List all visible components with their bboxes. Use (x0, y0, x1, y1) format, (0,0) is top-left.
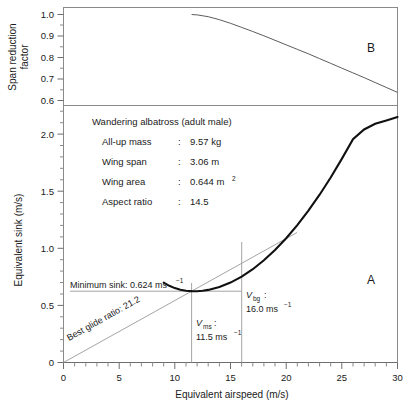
panel-a-ytick-label: 0 (49, 357, 54, 368)
panel-a-yticks-minor (60, 111, 64, 351)
info-block: Wandering albatross (adult male) All-up … (92, 116, 236, 207)
panel-a-xtick-label: 20 (281, 372, 292, 383)
panel-a-label: A (367, 273, 375, 287)
figure-root: 1.0 0.9 0.8 0.7 0.6 Span reduction facto… (0, 0, 419, 405)
panel-a-xtick-label: 10 (170, 372, 181, 383)
panel-b-ylabel-line1: Span reduction (7, 23, 18, 90)
info-row-separator: : (178, 176, 181, 187)
v-ms-symbol: V (196, 318, 203, 328)
v-ms-subscript: ms (203, 323, 212, 330)
info-row-value: 3.06 m (190, 156, 219, 167)
panel-a-ytick-labels: 0 0.5 1.0 1.5 2.0 (41, 129, 54, 368)
panel-a-ytick-label: 1.5 (41, 186, 54, 197)
panel-b-ytick-label: 0.7 (41, 73, 54, 84)
figure-svg: 1.0 0.9 0.8 0.7 0.6 Span reduction facto… (0, 0, 419, 405)
panel-b-ylabel: Span reduction factor (7, 23, 30, 90)
info-row: All-up mass : 9.57 kg (102, 136, 221, 147)
info-row-label: Wing span (102, 156, 147, 167)
v-ms-colon: : (214, 318, 217, 328)
panel-b-yticks-major (58, 15, 64, 101)
panel-b-ytick-label: 0.6 (41, 95, 54, 106)
panel-b: 1.0 0.9 0.8 0.7 0.6 Span reduction facto… (7, 8, 398, 106)
info-row-label: Aspect ratio (102, 196, 152, 207)
minimum-sink-annotation: Minimum sink: 0.624 ms −1 (70, 277, 184, 290)
panel-a-xtick-label: 30 (392, 372, 403, 383)
v-bg-symbol: V (246, 290, 253, 300)
panel-b-frame (64, 8, 398, 106)
panel-a-ytick-label: 0.5 (41, 300, 54, 311)
v-bg-colon: : (264, 290, 267, 300)
v-bg-value-exponent: −1 (284, 301, 292, 308)
info-row-label: Wing area (102, 176, 146, 187)
v-bg-annotation: V bg : 16.0 ms −1 (246, 290, 292, 314)
info-row-separator: : (178, 156, 181, 167)
panel-a-xtick-label: 15 (225, 372, 236, 383)
panel-a-ylabel: Equivalent sink (m/s) (13, 194, 24, 287)
panel-b-ytick-label: 0.9 (41, 30, 54, 41)
panel-b-ytick-label: 0.8 (41, 52, 54, 63)
best-glide-ratio-label: Best glide ratio: 21.2 (65, 294, 142, 343)
info-row-separator: : (178, 196, 181, 207)
v-ms-annotation: V ms : 11.5 ms −1 (196, 318, 242, 342)
panel-a-xtick-labels: 0 5 10 15 20 25 30 (61, 372, 403, 383)
panel-a-xticks-major (64, 363, 398, 370)
info-row-value: 0.644 m (190, 176, 224, 187)
info-row-separator: : (178, 136, 181, 147)
info-row: Wing area : 0.644 m 2 (102, 175, 236, 187)
panel-a-xtick-label: 0 (61, 372, 66, 383)
info-row: Aspect ratio : 14.5 (102, 196, 209, 207)
minimum-sink-label: Minimum sink: 0.624 ms (70, 280, 168, 290)
panel-a-ytick-label: 1.0 (41, 243, 54, 254)
info-block-title: Wandering albatross (adult male) (92, 116, 232, 127)
v-ms-value-exponent: −1 (234, 329, 242, 336)
panel-b-ytick-labels: 1.0 0.9 0.8 0.7 0.6 (41, 9, 54, 106)
minimum-sink-exponent: −1 (176, 277, 184, 284)
info-row-label: All-up mass (102, 136, 152, 147)
panel-b-ytick-label: 1.0 (41, 9, 54, 20)
info-row-value: 9.57 kg (190, 136, 221, 147)
panel-a-ytick-label: 2.0 (41, 129, 54, 140)
info-row: Wing span : 3.06 m (102, 156, 219, 167)
panel-a-xtick-label: 25 (337, 372, 348, 383)
v-bg-value: 16.0 ms (246, 304, 279, 314)
info-row-value: 14.5 (190, 196, 209, 207)
best-glide-tangent-line (64, 233, 298, 363)
v-ms-value: 11.5 ms (196, 332, 228, 342)
panel-a-xtick-label: 5 (117, 372, 122, 383)
info-row-value-superscript: 2 (232, 175, 236, 182)
panel-a-xlabel: Equivalent airspeed (m/s) (175, 389, 288, 400)
panel-a: 0 0.5 1.0 1.5 2.0 Equivalent sink (m/s) (13, 106, 403, 401)
panel-b-ylabel-line2: factor (19, 44, 30, 70)
panel-b-label: B (367, 41, 375, 55)
v-bg-subscript: bg (253, 295, 261, 303)
